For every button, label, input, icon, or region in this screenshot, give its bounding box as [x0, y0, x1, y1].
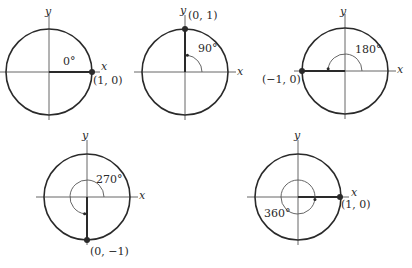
arrow-head-icon: [327, 67, 330, 70]
terminal-point-dot: [182, 26, 188, 32]
y-axis-label-90: y: [180, 5, 186, 16]
x-axis-label-0: x: [101, 61, 107, 72]
arrow-head-icon: [83, 212, 86, 215]
angle-arc: [187, 55, 202, 72]
point-label-180: (−1, 0): [262, 74, 301, 85]
x-axis-label-360: x: [351, 187, 357, 198]
x-axis-label-90: x: [237, 66, 243, 77]
diagram-canvas: [0, 0, 412, 268]
angle-label-270: 270°: [96, 174, 123, 185]
unit-circle-angle-diagrams: y x (1, 0) 0° y x (0, 1) 90° y x (−1, 0)…: [0, 0, 412, 268]
point-label-90: (0, 1): [188, 10, 218, 21]
y-axis-label-180: y: [340, 6, 346, 17]
angle-label-180: 180°: [355, 44, 382, 55]
point-label-270: (0, −1): [90, 246, 129, 257]
arrow-head-icon: [313, 198, 316, 201]
angle-label-90: 90°: [198, 43, 218, 54]
terminal-point-dot: [84, 237, 90, 243]
arrow-head-icon: [186, 54, 189, 57]
y-axis-label-360: y: [294, 130, 300, 141]
x-axis-label-270: x: [139, 190, 145, 201]
y-axis-label-270: y: [82, 130, 88, 141]
point-label-360: (1, 0): [341, 199, 371, 210]
angle-label-0: 0°: [63, 56, 76, 67]
x-axis-label-180: x: [397, 64, 403, 75]
y-axis-label-0: y: [45, 6, 51, 17]
point-label-0: (1, 0): [93, 75, 123, 86]
angle-label-360: 360°: [264, 208, 291, 219]
